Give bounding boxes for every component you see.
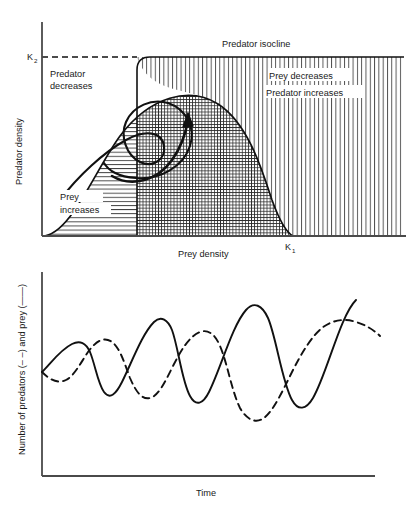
k1-label-subscript: 1 — [292, 247, 296, 254]
bottom-panel-y-axis-label-group: Number of predators (– –) and prey (——) — [17, 284, 27, 455]
bottom-panel-x-axis-label: Time — [196, 488, 216, 498]
top-panel-x-axis-label: Prey density — [178, 249, 229, 259]
prey-population-curve — [42, 300, 356, 408]
k1-label-text: K — [285, 242, 291, 252]
region-label-line1: Prey decreases — [269, 71, 333, 81]
region-label-line1: Prey — [60, 192, 79, 202]
top-panel-y-axis-label: Predator density — [14, 118, 24, 185]
top-panel: K 2 K 1 Predator isocline Predator decre… — [14, 22, 407, 259]
k2-label-text: K — [27, 52, 33, 62]
bottom-panel: Number of predators (– –) and prey (——) … — [17, 272, 380, 498]
figure-container: K 2 K 1 Predator isocline Predator decre… — [0, 0, 412, 519]
region-label-line2: increases — [60, 205, 100, 215]
figure-svg: K 2 K 1 Predator isocline Predator decre… — [0, 0, 412, 519]
region-label-line1: Predator — [50, 69, 85, 79]
k1-label: K 1 — [285, 242, 296, 254]
k2-label-subscript: 2 — [34, 57, 38, 64]
predator-population-curve — [42, 320, 380, 421]
region-label-line2: decreases — [50, 81, 93, 91]
region-label-predator-decreases: Predator decreases — [50, 69, 93, 91]
region-label-line2: Predator increases — [266, 88, 344, 98]
predator-isocline-label: Predator isocline — [222, 39, 290, 49]
bottom-panel-y-axis-label: Number of predators (– –) and prey (——) — [17, 284, 27, 455]
k2-label: K 2 — [27, 52, 38, 64]
